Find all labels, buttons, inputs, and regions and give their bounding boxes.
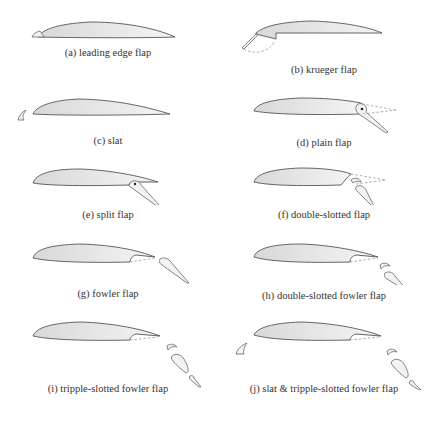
caption-c: (c) slat: [0, 135, 216, 146]
caption-e: (e) split flap: [0, 209, 216, 220]
caption-h: (h) double-slotted fowler flap: [216, 290, 432, 301]
panel-slat-tripple-slotted-fowler-flap: (j) slat & tripple-slotted fowler flap: [216, 310, 432, 385]
slat-tripple-slotted-fowler-flap-diagram: [216, 310, 432, 390]
panel-plain-flap: (d) plain flap: [216, 90, 432, 165]
tripple-slotted-fowler-flap-diagram: [0, 310, 216, 390]
caption-f: (f) double-slotted flap: [216, 209, 432, 220]
slat-diagram: [0, 90, 216, 135]
caption-b: (b) krueger flap: [216, 64, 432, 75]
caption-g: (g) fowler flap: [0, 288, 216, 299]
caption-d: (d) plain flap: [216, 137, 432, 148]
panel-fowler-flap: (g) fowler flap: [0, 235, 216, 310]
panel-double-slotted-flap: (f) double-slotted flap: [216, 160, 432, 235]
double-slotted-fowler-flap-diagram: [216, 235, 432, 285]
panel-slat: (c) slat: [0, 90, 216, 165]
plain-flap-diagram: [216, 90, 432, 135]
panel-leading-edge-flap: (a) leading edge flap: [0, 0, 216, 75]
panel-tripple-slotted-fowler-flap: (i) tripple-slotted fowler flap: [0, 310, 216, 385]
fowler-flap-diagram: [0, 235, 216, 285]
panel-double-slotted-fowler-flap: (h) double-slotted fowler flap: [216, 235, 432, 310]
caption-i: (i) tripple-slotted fowler flap: [0, 383, 216, 394]
panel-krueger-flap: (b) krueger flap: [216, 0, 432, 75]
krueger-flap-diagram: [216, 0, 432, 60]
caption-a: (a) leading edge flap: [0, 47, 216, 58]
double-slotted-flap-diagram: [216, 160, 432, 205]
panel-split-flap: (e) split flap: [0, 160, 216, 235]
split-flap-diagram: [0, 160, 216, 205]
caption-j: (j) slat & tripple-slotted fowler flap: [216, 383, 432, 394]
